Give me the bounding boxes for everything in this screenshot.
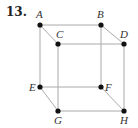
edge-EG <box>40 87 58 111</box>
vertex-label-B: B <box>97 8 104 20</box>
vertex-G <box>55 108 60 113</box>
cube-diagram: 13. ABCDEFGH <box>0 0 138 128</box>
vertex-label-G: G <box>54 114 62 126</box>
vertex-label-E: E <box>28 81 36 93</box>
vertex-C <box>55 41 60 46</box>
vertex-B <box>98 22 103 27</box>
vertex-label-A: A <box>35 8 43 20</box>
vertex-label-F: F <box>104 81 112 93</box>
vertex-H <box>121 108 126 113</box>
vertex-E <box>37 84 42 89</box>
vertex-label-H: H <box>119 114 129 126</box>
vertex-label-C: C <box>56 28 64 40</box>
vertex-A <box>37 22 42 27</box>
vertex-F <box>98 84 103 89</box>
vertex-D <box>121 41 126 46</box>
vertex-label-D: D <box>119 28 128 40</box>
cube-graph: ABCDEFGH <box>0 0 138 128</box>
